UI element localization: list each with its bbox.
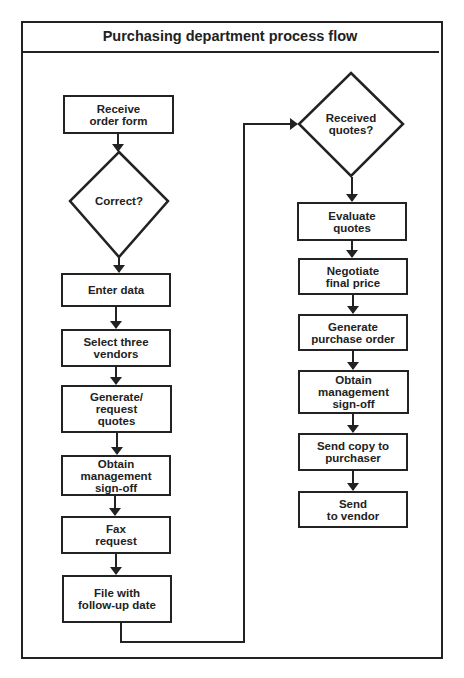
step-label: Enter data	[88, 284, 144, 296]
decision-label: Correct?	[95, 195, 143, 207]
step-generate-request-quotes: Generate/ request quotes	[61, 385, 172, 433]
step-label: Obtain management sign-off	[81, 458, 152, 494]
step-label: Evaluate quotes	[328, 210, 375, 234]
step-generate-purchase-order: Generate purchase order	[298, 314, 408, 351]
decision-label: Received quotes?	[326, 112, 377, 136]
step-obtain-management-signoff-2: Obtain management sign-off	[298, 370, 409, 414]
step-evaluate-quotes: Evaluate quotes	[297, 202, 407, 241]
step-label: Negotiate final price	[326, 265, 380, 289]
step-label: Send to vendor	[327, 498, 379, 522]
step-label: Send copy to purchaser	[317, 440, 389, 464]
decision-correct: Correct?	[80, 190, 158, 212]
step-receive-order-form: Receive order form	[63, 95, 174, 134]
step-fax-request: Fax request	[61, 516, 171, 554]
step-label: Generate/ request quotes	[90, 391, 143, 427]
step-send-to-vendor: Send to vendor	[298, 491, 408, 528]
step-label: Obtain management sign-off	[318, 374, 389, 410]
step-negotiate-final-price: Negotiate final price	[298, 258, 408, 295]
flowchart-canvas: Purchasing department process flow	[0, 0, 464, 678]
step-select-three-vendors: Select three vendors	[61, 329, 171, 367]
step-label: Receive order form	[89, 103, 147, 127]
step-label: Fax request	[95, 523, 137, 547]
step-file-with-followup-date: File with follow-up date	[62, 575, 172, 623]
step-obtain-management-signoff-1: Obtain management sign-off	[61, 455, 171, 496]
step-enter-data: Enter data	[61, 273, 171, 307]
step-label: Generate purchase order	[311, 321, 395, 345]
step-send-copy-to-purchaser: Send copy to purchaser	[298, 433, 408, 471]
step-label: File with follow-up date	[78, 587, 156, 611]
step-label: Select three vendors	[83, 336, 148, 360]
decision-received-quotes: Received quotes?	[312, 110, 390, 138]
